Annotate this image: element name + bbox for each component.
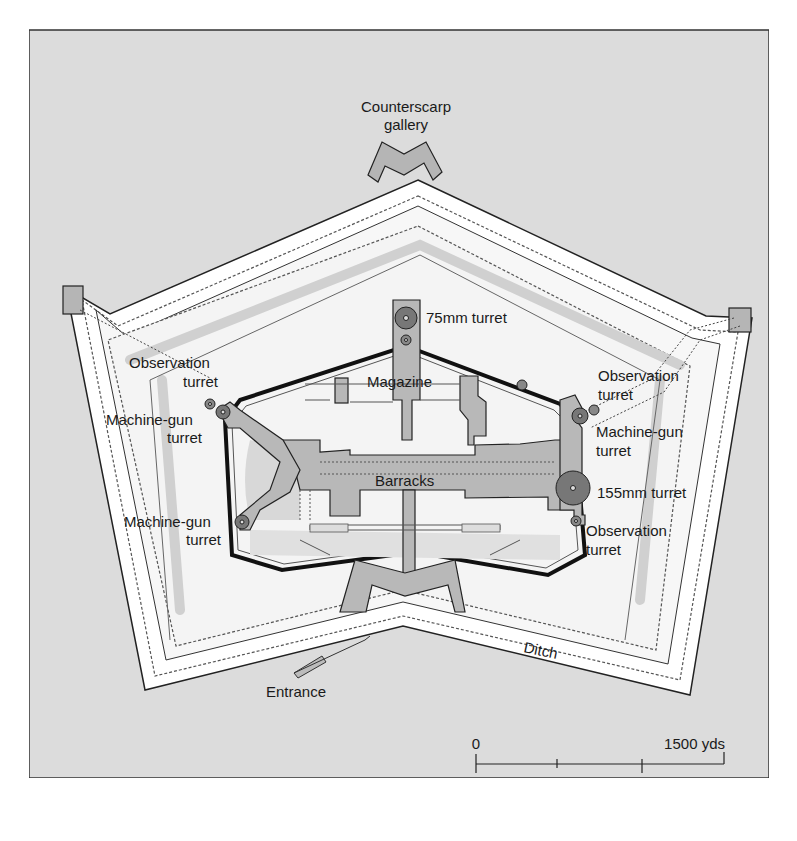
label-mg-left-top: Machine-gun	[106, 411, 193, 428]
label-obs-left-2: turret	[183, 373, 219, 390]
label-barracks: Barracks	[375, 472, 434, 489]
label-75mm-turret: 75mm turret	[426, 309, 508, 326]
label-counterscarp-2: gallery	[384, 116, 429, 133]
label-155mm-turret: 155mm turret	[597, 484, 687, 501]
fort-plan-svg: Counterscarp gallery 75mm turret Magazin…	[29, 29, 769, 778]
label-mg-right: Machine-gun	[596, 423, 683, 440]
label-mg-left-bottom: Machine-gun	[124, 513, 211, 530]
obs-turret-right-top	[589, 405, 599, 415]
label-obs-right-bottom-2: turret	[586, 541, 622, 558]
label-mg-left-top-2: turret	[167, 429, 203, 446]
label-magazine: Magazine	[367, 373, 432, 390]
label-mg-left-bottom-2: turret	[186, 531, 222, 548]
label-obs-right-bottom: Observation	[586, 522, 667, 539]
label-obs-right-top-2: turret	[598, 386, 634, 403]
scale-top-left: 0	[472, 735, 480, 752]
label-obs-left: Observation	[129, 354, 210, 371]
label-obs-right-top: Observation	[598, 367, 679, 384]
fort-plan-diagram: Counterscarp gallery 75mm turret Magazin…	[29, 29, 769, 778]
label-counterscarp: Counterscarp	[361, 98, 451, 115]
corner-bastion-left	[63, 286, 83, 314]
label-mg-right-2: turret	[596, 442, 632, 459]
label-entrance: Entrance	[266, 683, 326, 700]
scale-top-right: 1500 yds	[664, 735, 725, 752]
